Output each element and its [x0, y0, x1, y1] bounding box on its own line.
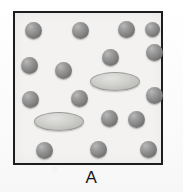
sphere-particle [71, 90, 88, 107]
sphere-particle [101, 110, 118, 127]
sphere-particle [140, 141, 157, 158]
disc-particle [34, 112, 84, 131]
particle-layer [15, 13, 161, 163]
sphere-particle [21, 57, 38, 74]
sphere-particle [118, 21, 135, 38]
sphere-particle [90, 141, 107, 158]
sphere-particle [145, 22, 160, 37]
sphere-particle [146, 44, 163, 61]
sphere-particle [22, 91, 39, 108]
sphere-particle [102, 49, 119, 66]
sphere-particle [128, 111, 145, 128]
sphere-particle [36, 142, 53, 159]
sphere-particle [72, 22, 89, 39]
specimen-box [13, 11, 163, 165]
sphere-particle [25, 22, 42, 39]
panel-label: A [0, 167, 183, 189]
sphere-particle [55, 62, 72, 79]
disc-particle [90, 72, 140, 91]
figure-panel-a: A [0, 0, 183, 192]
sphere-particle [146, 87, 163, 104]
